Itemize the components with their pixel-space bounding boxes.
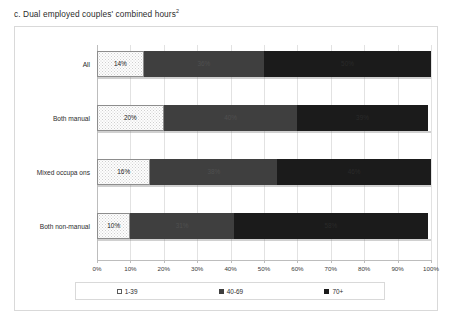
- bar-segment-40-69[interactable]: 40%: [164, 105, 298, 131]
- bar-segment-70plus[interactable]: 46%: [277, 159, 431, 185]
- x-tick-mark: [164, 260, 165, 263]
- legend-item[interactable]: 40-69: [219, 288, 243, 295]
- x-tick-label: 70%: [325, 265, 337, 272]
- x-tick-label: 20%: [158, 265, 170, 272]
- bar-row: Both non-manual10%31%58%: [97, 213, 431, 239]
- x-tick-label: 40%: [224, 265, 236, 272]
- bar-row: Both manual20%40%39%: [97, 105, 431, 131]
- x-tick-mark: [297, 260, 298, 263]
- x-tick-label: 0%: [93, 265, 102, 272]
- bar-segment-70plus[interactable]: 39%: [297, 105, 427, 131]
- stacked-bar: 20%40%39%: [97, 105, 431, 131]
- x-tick-mark: [398, 260, 399, 263]
- stacked-bar: 16%38%46%: [97, 159, 431, 185]
- x-tick-mark: [231, 260, 232, 263]
- x-tick-label: 30%: [191, 265, 203, 272]
- legend-label: 70+: [332, 288, 343, 295]
- bar-segment-label: 40%: [224, 115, 237, 121]
- bar-segment-1-39[interactable]: 20%: [97, 105, 164, 131]
- bar-segment-40-69[interactable]: 38%: [150, 159, 277, 185]
- bar-row: All14%36%50%: [97, 51, 431, 77]
- x-tick-label: 60%: [291, 265, 303, 272]
- stacked-bar: 10%31%58%: [97, 213, 431, 239]
- x-tick-label: 80%: [358, 265, 370, 272]
- x-tick-label: 90%: [391, 265, 403, 272]
- x-tick-mark: [197, 260, 198, 263]
- bar-segment-1-39[interactable]: 10%: [97, 213, 130, 239]
- bar-segment-label: 38%: [207, 169, 220, 175]
- x-tick-mark: [331, 260, 332, 263]
- category-label: All: [83, 61, 90, 68]
- x-tick-mark: [264, 260, 265, 263]
- bar-segment-label: 50%: [341, 61, 354, 67]
- x-tick-label: 50%: [258, 265, 270, 272]
- x-tick-mark: [431, 260, 432, 263]
- bar-shadow: [98, 77, 431, 79]
- bar-shadow: [98, 131, 431, 133]
- chart-container: All14%36%50%Both manual20%40%39%Mixed oc…: [14, 26, 438, 311]
- x-tick-mark: [130, 260, 131, 263]
- bar-segment-label: 46%: [348, 169, 361, 175]
- category-label: Both non-manual: [40, 223, 90, 230]
- category-label: Mixed occupa ons: [37, 169, 90, 176]
- bar-segment-70plus[interactable]: 50%: [264, 51, 431, 77]
- x-tick-label: 10%: [124, 265, 136, 272]
- category-label: Both manual: [53, 115, 90, 122]
- legend-swatch-icon: [324, 289, 329, 294]
- bar-segment-label: 36%: [197, 61, 210, 67]
- legend-item[interactable]: 70+: [324, 288, 343, 295]
- bar-shadow: [98, 239, 431, 241]
- legend-label: 1-39: [125, 288, 138, 295]
- bar-row: Mixed occupa ons16%38%46%: [97, 159, 431, 185]
- legend-swatch-icon: [117, 289, 122, 294]
- bar-segment-1-39[interactable]: 14%: [97, 51, 144, 77]
- bar-segment-label: 20%: [124, 115, 137, 121]
- bar-segment-label: 10%: [107, 223, 120, 229]
- bar-segment-label: 14%: [114, 61, 127, 67]
- bar-segment-label: 58%: [324, 223, 337, 229]
- title-footnote-marker: 2: [176, 8, 179, 14]
- bar-segment-label: 16%: [117, 169, 130, 175]
- x-tick-label: 100%: [423, 265, 439, 272]
- legend-swatch-icon: [219, 289, 224, 294]
- bar-segment-40-69[interactable]: 31%: [130, 213, 234, 239]
- bar-segment-1-39[interactable]: 16%: [97, 159, 150, 185]
- bar-segment-label: 31%: [176, 223, 189, 229]
- bar-segment-label: 39%: [356, 115, 369, 121]
- plot-area: All14%36%50%Both manual20%40%39%Mixed oc…: [97, 45, 431, 260]
- chart-legend: 1-3940-6970+: [75, 282, 385, 300]
- x-tick-mark: [97, 260, 98, 263]
- chart-title-text: c. Dual employed couples' combined hours: [14, 9, 176, 19]
- bar-shadow: [98, 185, 431, 187]
- legend-item[interactable]: 1-39: [117, 288, 138, 295]
- x-tick-mark: [364, 260, 365, 263]
- page-title: c. Dual employed couples' combined hours…: [14, 9, 179, 19]
- stacked-bar: 14%36%50%: [97, 51, 431, 77]
- bar-segment-70plus[interactable]: 58%: [234, 213, 428, 239]
- legend-label: 40-69: [227, 288, 243, 295]
- gridline-100: [431, 45, 432, 260]
- bar-segment-40-69[interactable]: 36%: [144, 51, 264, 77]
